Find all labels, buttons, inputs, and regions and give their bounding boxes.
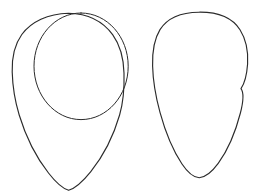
figure-canvas: Two outlined ovoid shapes Line drawing: …	[0, 0, 263, 195]
left-circle-outline	[34, 13, 128, 120]
left-shape-group	[12, 13, 128, 190]
left-egg-outline	[12, 13, 124, 190]
right-shape-group	[153, 12, 248, 178]
right-egg-outline	[153, 12, 248, 178]
shapes-svg: Two outlined ovoid shapes Line drawing: …	[0, 0, 263, 195]
